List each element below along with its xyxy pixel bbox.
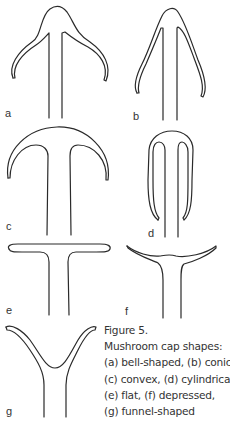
cap-shape-g-funnel — [6, 326, 96, 417]
caption-line: (g) funnel-shaped — [104, 403, 230, 419]
caption-line: (e) flat, (f) depressed, — [104, 387, 230, 403]
panel-label-e: e — [6, 305, 12, 316]
panel-label-a: a — [5, 108, 11, 119]
caption-line: (c) convex, (d) cylindrical, — [104, 371, 230, 387]
cap-shape-d-cylindrical — [148, 131, 193, 237]
panel-label-b: b — [133, 111, 139, 122]
cap-shape-e-flat — [8, 244, 110, 315]
panel-label-f: f — [125, 306, 128, 317]
panel-label-d: d — [148, 228, 154, 239]
caption-title: Figure 5. — [104, 322, 230, 338]
cap-shape-f-depressed — [127, 246, 216, 318]
cap-shape-c-convex — [8, 127, 109, 235]
panel-label-c: c — [6, 221, 12, 232]
caption-line: Mushroom cap shapes: — [104, 338, 230, 354]
cap-shape-a-bell — [12, 7, 108, 118]
cap-shape-b-conical — [135, 9, 205, 120]
panel-label-g: g — [6, 406, 12, 417]
figure-caption: Figure 5. Mushroom cap shapes: (a) bell-… — [104, 322, 230, 419]
caption-line: (a) bell-shaped, (b) conical, — [104, 354, 230, 370]
